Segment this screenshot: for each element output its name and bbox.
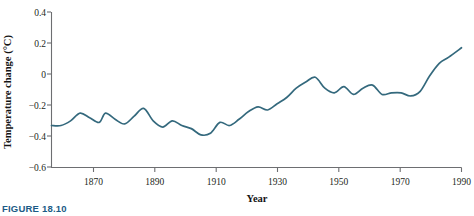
x-axis-ticks [94,168,462,173]
x-tick-label-1930: 1930 [268,177,287,187]
y-tick-label-0.2: 0.2 [34,39,46,49]
x-tick-label-1910: 1910 [207,177,226,187]
x-tick-label-1950: 1950 [329,177,348,187]
y-tick-label-0: 0 [41,70,46,80]
x-tick-label-1970: 1970 [391,177,410,187]
figure-caption: FIGURE 18.10 [2,203,67,216]
temperature-series-line [52,48,462,135]
y-tick-label-0.4: 0.4 [34,8,46,18]
x-axis-label: Year [247,193,268,204]
temperature-change-line-chart: Temperature change (°C) 0.4 0.2 0 −0.2 −… [0,0,474,216]
axis-spines [52,12,462,168]
y-axis-ticks [47,12,51,167]
y-tick-label-neg0.4: −0.4 [29,132,46,142]
x-tick-label-1990: 1990 [452,177,471,187]
figure-container: Temperature change (°C) 0.4 0.2 0 −0.2 −… [0,0,474,216]
y-tick-label-neg0.2: −0.2 [29,101,46,111]
x-tick-label-1890: 1890 [145,177,164,187]
y-tick-label-neg0.6: −0.6 [29,163,46,173]
y-axis-label: Temperature change (°C) [2,35,14,149]
x-tick-label-1870: 1870 [84,177,103,187]
